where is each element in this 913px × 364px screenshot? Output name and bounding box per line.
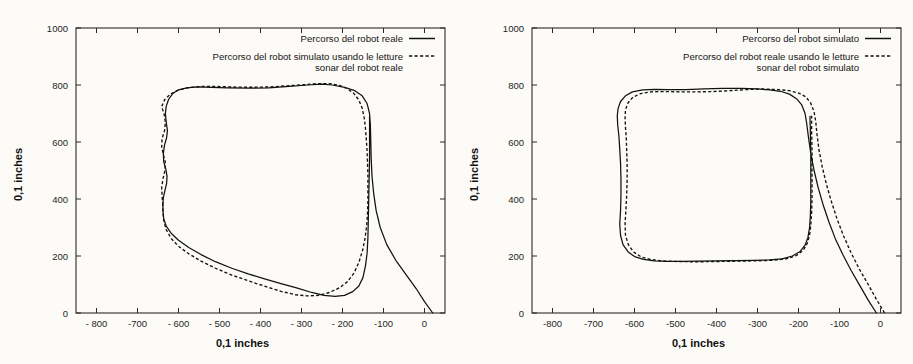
- x-tick-label: -300: [748, 318, 767, 329]
- x-tick-label: - 300: [291, 318, 313, 329]
- x-tick-label: 0: [878, 318, 883, 329]
- legend-label-2: Percorso del robot reale usando le lettu…: [683, 51, 859, 62]
- y-tick-label: 600: [52, 137, 68, 148]
- series-path-2: [162, 84, 368, 296]
- y-tick-label: 800: [508, 80, 524, 91]
- x-tick-label: -400: [707, 318, 726, 329]
- x-axis-title: 0,1 inches: [672, 337, 725, 349]
- x-tick-label: - 800: [86, 318, 108, 329]
- x-tick-label: -100: [830, 318, 849, 329]
- y-tick-label: 0: [63, 308, 68, 319]
- legend-label-2: sonar del robot simulato: [757, 62, 859, 73]
- y-tick-label: 600: [508, 137, 524, 148]
- x-tick-label: - 600: [168, 318, 190, 329]
- y-tick-label: 200: [508, 251, 524, 262]
- x-tick-label: -600: [625, 318, 644, 329]
- chart-svg-left: - 800-700- 600- 500- 400- 300- 200-10000…: [0, 0, 456, 364]
- y-tick-label: 0: [519, 308, 524, 319]
- x-tick-label: -800: [543, 318, 562, 329]
- chart-panel-left: - 800-700- 600- 500- 400- 300- 200-10000…: [0, 0, 456, 364]
- legend-label-1: Percorso del robot simulato: [742, 33, 859, 44]
- chart-panel-right: -800-700-600-500-400-300-200-10000200400…: [456, 0, 912, 364]
- y-axis-title: 0,1 inches: [468, 148, 480, 201]
- y-tick-label: 200: [52, 251, 68, 262]
- legend-label-1: Percorso del robot reale: [301, 33, 403, 44]
- y-tick-label: 800: [52, 80, 68, 91]
- x-tick-label: -500: [666, 318, 685, 329]
- figure-container: - 800-700- 600- 500- 400- 300- 200-10000…: [0, 0, 913, 364]
- y-tick-label: 400: [508, 194, 524, 205]
- x-tick-label: -700: [584, 318, 603, 329]
- x-tick-label: - 400: [250, 318, 272, 329]
- x-tick-label: -100: [374, 318, 393, 329]
- series-path-1: [163, 84, 433, 313]
- x-tick-label: -700: [128, 318, 147, 329]
- x-tick-label: - 500: [209, 318, 231, 329]
- series-path-2: [625, 89, 885, 313]
- legend-label-2: Percorso del robot simulato usando le le…: [213, 51, 403, 62]
- x-tick-label: 0: [422, 318, 427, 329]
- y-axis-title: 0,1 inches: [12, 148, 24, 201]
- x-axis-title: 0,1 inches: [216, 337, 269, 349]
- x-tick-label: -200: [789, 318, 808, 329]
- legend-label-2: sonar del robot reale: [315, 62, 403, 73]
- x-tick-label: - 200: [332, 318, 354, 329]
- y-tick-label: 1000: [47, 23, 68, 34]
- series-path-1: [617, 88, 876, 313]
- y-tick-label: 1000: [503, 23, 524, 34]
- y-tick-label: 400: [52, 194, 68, 205]
- chart-svg-right: -800-700-600-500-400-300-200-10000200400…: [456, 0, 912, 364]
